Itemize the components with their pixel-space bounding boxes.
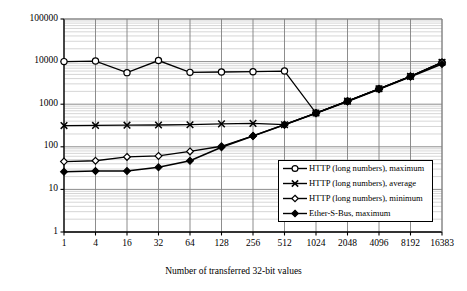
chart-figure: Exchange duration [ms] Number of transfe…	[0, 0, 467, 291]
y-tick-label: 1	[53, 226, 58, 236]
legend-label-2: HTTP (long numbers), minimum	[309, 194, 423, 203]
filled-diamond-marker-icon	[282, 207, 308, 220]
legend: HTTP (long numbers), maximum HTTP (long …	[278, 160, 433, 222]
y-tick-label: 1000	[39, 98, 58, 108]
legend-item-1: HTTP (long numbers), average	[279, 176, 432, 191]
open-circle-marker-icon	[282, 162, 308, 175]
legend-item-2: HTTP (long numbers), minimum	[279, 191, 432, 206]
y-tick-label: 100000	[30, 13, 59, 23]
legend-item-3: Ether-S-Bus, maximum	[279, 206, 432, 221]
x-axis-title: Number of transferred 32-bit values	[0, 266, 467, 276]
y-tick-label: 100	[44, 140, 58, 150]
legend-label-1: HTTP (long numbers), average	[309, 179, 416, 188]
legend-item-0: HTTP (long numbers), maximum	[279, 161, 432, 176]
y-tick-label: 10000	[34, 55, 58, 65]
legend-label-3: Ether-S-Bus, maximum	[309, 209, 390, 218]
open-diamond-marker-icon	[282, 192, 308, 205]
cross-x-marker-icon	[282, 177, 308, 190]
legend-label-0: HTTP (long numbers), maximum	[309, 164, 424, 173]
y-tick-label: 10	[49, 183, 59, 193]
x-tick-label: 16383	[422, 238, 462, 248]
